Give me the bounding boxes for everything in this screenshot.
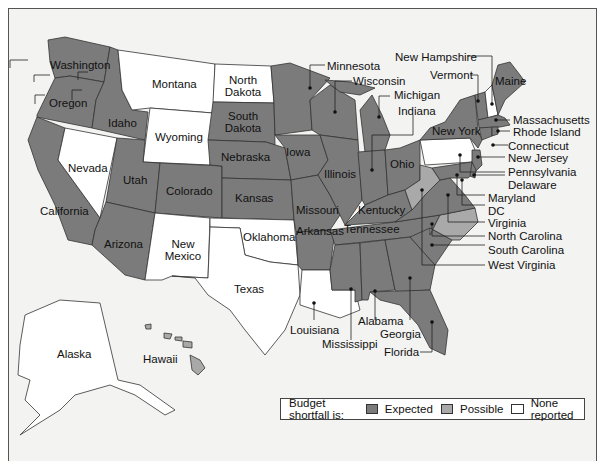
label-maine: Maine — [495, 75, 526, 87]
label-wyoming: Wyoming — [155, 131, 203, 143]
label-pennsylvania: Pennsylvania — [508, 166, 576, 178]
label-south-carolina: South Carolina — [488, 244, 564, 256]
state-hawaii-molokai — [175, 337, 182, 341]
label-wisconsin: Wisconsin — [353, 75, 405, 87]
legend-swatch-expected — [366, 404, 378, 414]
label-nebraska: Nebraska — [221, 151, 270, 163]
label-virginia: Virginia — [488, 217, 526, 229]
legend-swatch-possible — [441, 404, 453, 414]
label-tennessee: Tennessee — [344, 223, 400, 235]
legend: Budget shortfall is: Expected Possible N… — [280, 398, 585, 420]
label-ohio: Ohio — [390, 158, 414, 170]
label-north-carolina: North Carolina — [488, 230, 562, 242]
label-oregon: Oregon — [49, 97, 87, 109]
state-maine — [492, 62, 525, 115]
label-oklahoma: Oklahoma — [243, 231, 295, 243]
label-colorado: Colorado — [166, 185, 213, 197]
label-arkansas: Arkansas — [296, 225, 344, 237]
label-west-virginia: West Virginia — [488, 259, 555, 271]
label-idaho: Idaho — [108, 117, 137, 129]
label-kansas: Kansas — [235, 192, 273, 204]
state-hawaii-big — [190, 355, 205, 375]
label-hawaii: Hawaii — [143, 353, 178, 365]
label-maryland: Maryland — [488, 192, 535, 204]
state-pennsylvania — [420, 138, 475, 165]
label-montana: Montana — [152, 78, 197, 90]
label-arizona: Arizona — [104, 238, 143, 250]
label-texas: Texas — [234, 283, 264, 295]
label-rhode-island: Rhode Island — [513, 126, 581, 138]
label-dc: DC — [488, 205, 505, 217]
label-kentucky: Kentucky — [358, 204, 405, 216]
label-minnesota: Minnesota — [327, 60, 380, 72]
label-vermont: Vermont — [430, 69, 473, 81]
label-california: California — [40, 205, 89, 217]
label-north-dakota: North Dakota — [223, 74, 263, 98]
label-south-dakota: South Dakota — [223, 110, 263, 134]
legend-label-expected: Expected — [385, 403, 433, 415]
label-nevada: Nevada — [68, 162, 108, 174]
legend-label-possible: Possible — [460, 403, 503, 415]
label-missouri: Missouri — [296, 204, 339, 216]
label-michigan: Michigan — [394, 89, 440, 101]
label-georgia: Georgia — [380, 328, 421, 340]
state-maryland — [432, 162, 475, 180]
state-alaska — [18, 300, 175, 435]
legend-label-none: None reported — [531, 397, 584, 421]
label-mississippi: Mississippi — [322, 338, 378, 350]
state-hawaii-maui — [183, 341, 192, 348]
label-massachusetts: Massachusetts — [513, 114, 590, 126]
label-new-hampshire: New Hampshire — [395, 51, 477, 63]
label-louisiana: Louisiana — [290, 324, 339, 336]
legend-swatch-none — [511, 404, 523, 414]
label-florida: Florida — [384, 346, 419, 358]
label-new-jersey: New Jersey — [508, 152, 568, 164]
label-alaska: Alaska — [57, 348, 92, 360]
label-indiana: Indiana — [398, 105, 436, 117]
label-washington: Washington — [50, 59, 110, 71]
label-new-york: New York — [432, 125, 481, 137]
state-hawaii-oahu — [164, 333, 172, 339]
state-hawaii-kauai — [145, 324, 151, 329]
label-delaware: Delaware — [508, 179, 557, 191]
label-utah: Utah — [123, 174, 147, 186]
label-new-mexico: New Mexico — [163, 238, 203, 262]
legend-title: Budget shortfall is: — [289, 397, 358, 421]
label-connecticut: Connecticut — [508, 140, 569, 152]
state-michigan — [360, 95, 390, 152]
label-alabama: Alabama — [358, 315, 403, 327]
label-iowa: Iowa — [286, 146, 310, 158]
label-illinois: Illinois — [324, 168, 356, 180]
